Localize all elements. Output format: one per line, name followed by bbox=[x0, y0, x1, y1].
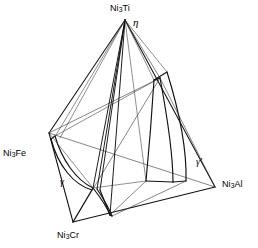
eta-thin-5 bbox=[125, 20, 146, 181]
eta-thin-1 bbox=[56, 20, 125, 135]
tetrahedron-edges bbox=[49, 20, 215, 222]
ni3al-tail: Al bbox=[234, 179, 242, 189]
gamma-prime-inner-curve bbox=[160, 78, 173, 182]
ni3cr-base: Ni bbox=[57, 230, 66, 240]
eta-thin-3 bbox=[125, 20, 154, 80]
gamma-connector-lines bbox=[49, 78, 160, 188]
gamma-prime-base-left bbox=[146, 181, 173, 182]
gamma-lower-curve bbox=[93, 188, 110, 215]
base-tie-lines bbox=[110, 181, 186, 216]
eta-thin-4 bbox=[125, 20, 167, 72]
phase-label-gamma-prime: γ′ bbox=[196, 157, 202, 167]
gamma-prime-field bbox=[146, 72, 186, 182]
tetrahedron-hidden-edges bbox=[49, 20, 215, 222]
gamma-connector-1 bbox=[49, 133, 93, 188]
vertex-label-ni3al: Ni3Al bbox=[222, 180, 243, 190]
edge-ti-back bbox=[125, 20, 160, 78]
edge-back-al bbox=[160, 78, 215, 187]
ni3fe-tail: Fe bbox=[15, 148, 26, 158]
edge-ti-fe bbox=[49, 20, 125, 133]
gamma-base-to-cr2 bbox=[100, 190, 110, 215]
vertex-label-ni3cr: Ni3Cr bbox=[57, 231, 79, 241]
gamma-prime-outer-curve bbox=[167, 72, 186, 181]
ni3ti-tail: Ti bbox=[122, 3, 129, 13]
tetrahedron-diagram bbox=[0, 0, 258, 248]
gamma-base-to-cr bbox=[73, 188, 93, 222]
ni3ti-base: Ni bbox=[110, 3, 119, 13]
edge-cr-al bbox=[73, 187, 215, 222]
eta-line-c bbox=[100, 20, 125, 190]
ni3cr-tail: Cr bbox=[69, 230, 79, 240]
vertex-label-ni3ti: Ni3Ti bbox=[110, 4, 130, 14]
ni3fe-base: Ni bbox=[3, 148, 12, 158]
base-tie-1 bbox=[110, 181, 146, 215]
phase-diagram-figure: Ni3Ti Ni3Fe Ni3Cr Ni3Al η γ γ′ bbox=[0, 0, 258, 248]
phase-label-gamma: γ bbox=[60, 177, 64, 187]
eta-line-d bbox=[110, 20, 125, 215]
vertex-label-ni3fe: Ni3Fe bbox=[3, 149, 26, 159]
phase-label-eta: η bbox=[133, 17, 138, 28]
ni3al-base: Ni bbox=[222, 179, 231, 189]
base-tie-2 bbox=[112, 181, 186, 216]
